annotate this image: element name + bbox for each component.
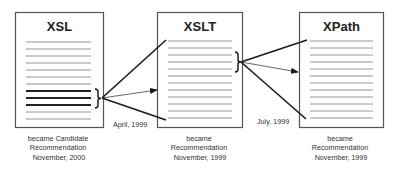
connector-lines: [241, 40, 307, 119]
document-title: XSLT: [184, 19, 216, 34]
connector-line: [241, 62, 306, 119]
caption-line: Recommendation: [171, 143, 227, 152]
caption-line: November, 1999: [174, 153, 227, 162]
document-caption: became Candidate Recommendation November…: [28, 134, 90, 162]
caption-line: became Candidate: [28, 134, 88, 143]
document-xslt: XSLT became Recommendation November, 199…: [158, 13, 243, 162]
caption-line: Recommendation: [30, 143, 86, 152]
document-title: XSL: [47, 19, 72, 34]
date-label: July, 1999: [257, 117, 289, 126]
document-caption: became Recommendation November, 1999: [171, 134, 229, 162]
connector-lines: [102, 40, 166, 120]
caption-line: Recommendation: [312, 143, 368, 152]
document-caption: became Recommendation November, 1999: [312, 134, 370, 162]
caption-line: became: [327, 134, 353, 143]
caption-line: became: [186, 134, 212, 143]
connector-line: [102, 98, 166, 120]
xsl-family-diagram: XSL became Candidate Recommendation Nove…: [0, 0, 397, 170]
connector-line: [102, 40, 166, 98]
connector-line: [241, 40, 307, 62]
document-xsl: XSL became Candidate Recommendation Nove…: [16, 13, 104, 162]
date-label: April, 1999: [113, 120, 147, 129]
caption-line: November, 2000: [33, 153, 86, 162]
caption-line: November, 1999: [315, 153, 368, 162]
connection-xsl-to-xslt: April, 1999: [95, 40, 166, 129]
document-title: XPath: [323, 19, 360, 34]
document-xpath: XPath became Recommendation November, 19…: [300, 13, 384, 162]
connection-xslt-to-xpath: July, 1999: [235, 40, 307, 126]
